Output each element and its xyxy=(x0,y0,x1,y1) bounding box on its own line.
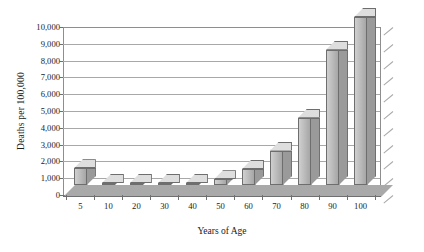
bar-40[interactable] xyxy=(186,183,199,185)
y-axis-tick xyxy=(59,178,63,179)
y-axis-tick-label: 3,000 xyxy=(41,140,60,150)
x-axis-tick xyxy=(150,195,151,200)
y-axis-tick-labels: 01,0002,0003,0004,0005,0006,0007,0008,00… xyxy=(8,0,60,252)
bar-front-face xyxy=(214,179,227,185)
side-wall-gridline xyxy=(383,94,393,102)
bar-front-face xyxy=(242,169,255,185)
x-axis-tick-label: 50 xyxy=(216,201,225,211)
bar-top-face xyxy=(326,41,348,50)
x-axis-tick xyxy=(94,195,95,200)
y-axis-tick-label: 6,000 xyxy=(41,89,60,99)
x-axis-tick-label: 30 xyxy=(160,201,169,211)
y-axis-tick-label: 8,000 xyxy=(41,56,60,66)
bar-side-face xyxy=(143,183,152,185)
side-wall-gridline xyxy=(383,145,393,153)
bar-90[interactable] xyxy=(326,50,339,185)
bar-side-face xyxy=(115,183,124,185)
y-axis-tick-label: 9,000 xyxy=(41,39,60,49)
bar-series xyxy=(63,17,381,195)
bar-top-face xyxy=(186,174,208,183)
bar-front-face xyxy=(130,183,143,185)
bar-front-face xyxy=(186,183,199,185)
y-axis-tick-label: 10,000 xyxy=(36,22,60,32)
x-axis-tick xyxy=(178,195,179,200)
bar-front-face xyxy=(326,50,339,185)
y-axis-tick xyxy=(59,44,63,45)
bar-5[interactable] xyxy=(74,168,87,185)
bar-50[interactable] xyxy=(214,179,227,185)
bar-80[interactable] xyxy=(298,118,311,185)
plot-side-wall xyxy=(381,17,393,195)
bar-front-face xyxy=(354,17,367,185)
bar-top-face xyxy=(354,8,376,17)
bar-top-face xyxy=(214,170,236,179)
y-axis-tick xyxy=(59,128,63,129)
bar-side-face xyxy=(171,183,180,185)
bar-30[interactable] xyxy=(158,183,171,185)
side-wall-gridline xyxy=(383,44,393,52)
bar-side-face xyxy=(199,183,208,185)
x-axis-title: Years of Age xyxy=(63,226,381,236)
x-axis-tick-label: 10 xyxy=(104,201,113,211)
x-axis-tick xyxy=(291,195,292,200)
bar-20[interactable] xyxy=(130,183,143,185)
x-axis-tick xyxy=(206,195,207,200)
y-axis-tick-label: 7,000 xyxy=(41,72,60,82)
y-axis-tick xyxy=(59,77,63,78)
y-axis-tick xyxy=(59,161,63,162)
x-axis-tick-label: 20 xyxy=(132,201,141,211)
bar-top-face xyxy=(74,159,96,168)
x-axis-tick-label: 90 xyxy=(328,201,337,211)
side-wall-gridline xyxy=(383,162,393,170)
bar-side-face xyxy=(283,151,292,185)
side-wall-gridline xyxy=(383,27,393,35)
x-axis-tick-label: 70 xyxy=(272,201,281,211)
bar-front-face xyxy=(270,151,283,185)
x-axis-tick xyxy=(122,195,123,200)
bar-side-face xyxy=(227,179,236,185)
bar-side-face xyxy=(255,169,264,185)
x-axis-tick-label: 100 xyxy=(354,201,367,211)
x-axis: 5102030405060708090100 xyxy=(63,195,393,215)
x-axis-tick-label: 60 xyxy=(244,201,253,211)
x-axis-tick xyxy=(262,195,263,200)
chart-container: Deaths per 100,000 01,0002,0003,0004,000… xyxy=(0,0,424,252)
bar-top-face xyxy=(242,160,264,169)
bar-100[interactable] xyxy=(354,17,367,185)
bar-top-face xyxy=(158,174,180,183)
x-axis-tick-label: 40 xyxy=(188,201,197,211)
bar-top-face xyxy=(270,142,292,151)
bar-side-face xyxy=(87,168,96,185)
y-axis-tick-label: 5,000 xyxy=(41,106,60,116)
x-axis-tick xyxy=(347,195,348,200)
x-axis-tick xyxy=(234,195,235,200)
side-wall-gridline xyxy=(383,61,393,69)
bar-60[interactable] xyxy=(242,169,255,185)
bar-front-face xyxy=(74,168,87,185)
bar-10[interactable] xyxy=(102,183,115,185)
bar-front-face xyxy=(102,183,115,185)
y-axis-tick xyxy=(59,145,63,146)
y-axis-tick xyxy=(59,27,63,28)
bar-side-face xyxy=(367,17,376,185)
plot-area xyxy=(63,17,393,195)
y-axis-tick xyxy=(59,111,63,112)
side-wall-gridline xyxy=(383,111,393,119)
bar-top-face xyxy=(298,109,320,118)
bar-side-face xyxy=(339,50,348,185)
y-axis-tick xyxy=(59,61,63,62)
x-axis-tick xyxy=(375,195,376,200)
y-axis-tick-label: 4,000 xyxy=(41,123,60,133)
x-axis-tick-label: 5 xyxy=(78,201,82,211)
bar-70[interactable] xyxy=(270,151,283,185)
y-axis-tick-label: 1,000 xyxy=(41,173,60,183)
side-wall-gridline xyxy=(383,128,393,136)
bar-front-face xyxy=(158,183,171,185)
side-wall-gridline xyxy=(383,78,393,86)
x-axis-tick xyxy=(319,195,320,200)
bar-top-face xyxy=(130,174,152,183)
bar-front-face xyxy=(298,118,311,185)
y-axis-tick xyxy=(59,94,63,95)
bar-top-face xyxy=(102,174,124,183)
x-axis-tick xyxy=(66,195,67,200)
